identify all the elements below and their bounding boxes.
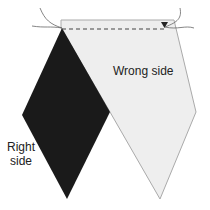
right-side-label: Right side — [4, 140, 38, 168]
right-side-label-line1: Right — [4, 140, 38, 154]
wrong-side-label: Wrong side — [113, 64, 173, 78]
bunting-diagram — [0, 0, 210, 210]
thread-left-top — [40, 8, 62, 28]
right-side-label-line2: side — [4, 154, 38, 168]
